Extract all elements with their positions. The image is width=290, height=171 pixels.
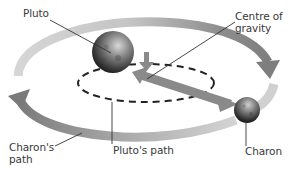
pluto-charon-orbit-diagram: Pluto Centre of gravity Charon's path Pl… (0, 0, 290, 171)
leader-line-centre-of-gravity (147, 22, 235, 79)
label-charon: Charon (245, 145, 282, 157)
label-centre-of-gravity: Centre of gravity (235, 10, 283, 34)
barycentre-down-arrow (139, 52, 154, 71)
charon-sphere (234, 97, 260, 123)
orbit-arrowhead-right (256, 60, 280, 79)
label-pluto: Pluto (23, 7, 49, 19)
pluto-charon-arrow (132, 66, 238, 112)
pluto-sphere (92, 31, 134, 73)
leader-line-charons-path (55, 133, 82, 146)
label-charons-path: Charon's path (9, 141, 54, 165)
label-plutos-path: Pluto's path (113, 144, 174, 156)
